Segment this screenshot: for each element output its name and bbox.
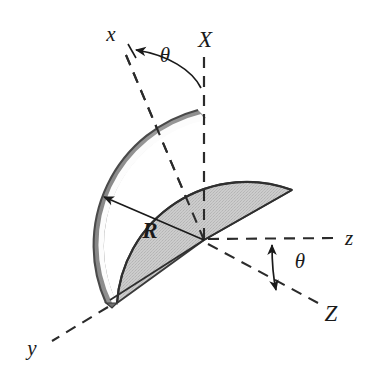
background (0, 0, 365, 369)
axis-label-x: x (105, 22, 116, 46)
radius-label-R: R (141, 218, 157, 243)
angle-label-theta-upper: θ (160, 43, 170, 67)
axis-label-y: y (25, 336, 37, 360)
figure-canvas: x X y z Z θ θ R (0, 0, 365, 369)
half-disk-diagram: x X y z Z θ θ R (0, 0, 365, 369)
axis-label-X-upper: X (197, 27, 213, 52)
axis-label-Z-upper: Z (325, 301, 338, 326)
axis-label-z: z (344, 226, 353, 250)
angle-label-theta-lower: θ (295, 249, 305, 273)
